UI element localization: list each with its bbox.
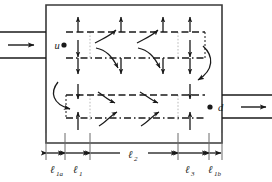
l3-symbol: ℓ — [185, 164, 190, 175]
dimension-label-l1: ℓ 1 — [73, 164, 83, 178]
dimension-label-l1b: ℓ 1b — [208, 164, 222, 178]
l1-subscript: 1 — [79, 170, 83, 178]
l2-subscript: 2 — [134, 155, 138, 163]
l1a-symbol: ℓ — [50, 164, 55, 175]
dimension-label-l2: ℓ 2 — [128, 149, 138, 163]
dimension-label-l1a: ℓ 1a — [50, 164, 64, 178]
outlet-dot-icon — [207, 104, 212, 109]
inlet-dot-icon — [61, 42, 66, 47]
right-turn-arrow — [198, 46, 211, 80]
lower-curved-arrows — [98, 92, 159, 126]
l1b-subscript: 1b — [214, 170, 222, 178]
crossflow-down-arrows — [78, 58, 190, 74]
outlet-label: d — [218, 102, 224, 113]
lower-channel — [66, 95, 205, 118]
upper-curved-arrows — [95, 30, 160, 68]
l1b-symbol: ℓ — [208, 164, 213, 175]
schematic-svg: u d ℓ 1a ℓ 1 ℓ 2 ℓ 3 ℓ 1b — [0, 0, 272, 182]
l1a-subscript: 1a — [56, 170, 64, 178]
inlet-duct — [0, 32, 46, 58]
dimension-label-l3: ℓ 3 — [185, 164, 195, 178]
inlet-label: u — [54, 40, 59, 51]
outlet-duct — [222, 95, 272, 118]
l2-symbol: ℓ — [128, 149, 133, 160]
crossflow-up-arrows — [78, 17, 190, 32]
curved-arrow-down-left-icon — [198, 46, 211, 80]
upper-channel — [66, 32, 205, 58]
body-outline — [46, 5, 222, 143]
l3-subscript: 3 — [190, 170, 195, 178]
l1-symbol: ℓ — [73, 164, 78, 175]
flow-diagram: u d ℓ 1a ℓ 1 ℓ 2 ℓ 3 ℓ 1b — [0, 0, 272, 182]
lower-crossflow-arrows — [78, 84, 190, 130]
section-dividers — [90, 32, 178, 120]
